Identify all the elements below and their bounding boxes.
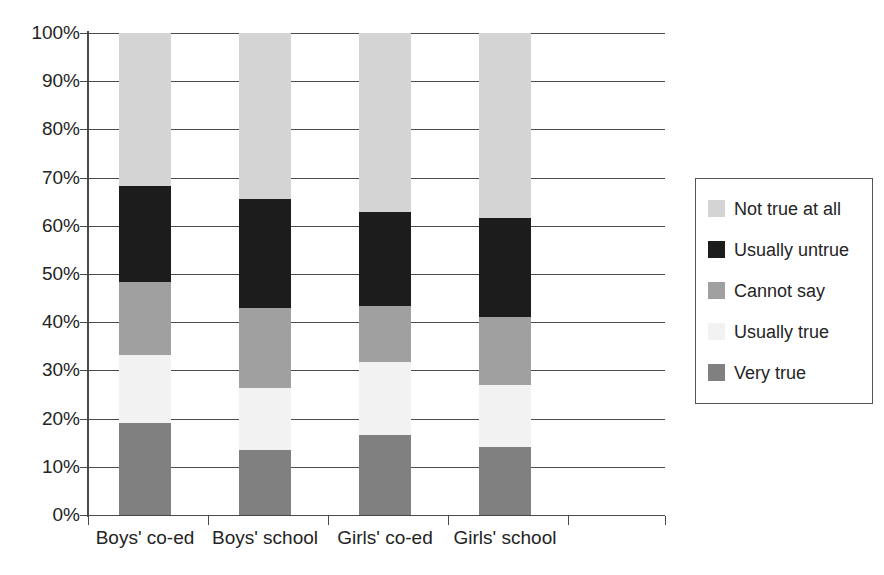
bar-segment-usually-true[interactable]: [119, 355, 171, 424]
legend-item-label: Very true: [734, 363, 806, 383]
gridline: [88, 515, 665, 516]
y-axis-label-group: 100%90%80%70%60%50%40%30%20%10%0%: [0, 0, 80, 575]
y-axis-tick-mark: [80, 226, 89, 227]
y-axis-tick-label: 100%: [0, 23, 80, 42]
y-axis-tick-mark: [80, 178, 89, 179]
legend-swatch-icon: [708, 323, 725, 340]
bar-segment-usually-true[interactable]: [359, 362, 411, 435]
bar-segment-cannot-say[interactable]: [479, 317, 531, 385]
legend-item-label: Not true at all: [734, 199, 841, 219]
bar-segment-not-true-at-all[interactable]: [479, 33, 531, 218]
bar-segment-usually-true[interactable]: [479, 385, 531, 447]
y-axis-tick-label: 10%: [0, 457, 80, 476]
plot-area: [88, 33, 665, 515]
y-axis-tick-label: 70%: [0, 168, 80, 187]
bar-segment-cannot-say[interactable]: [119, 282, 171, 354]
y-axis-tick-mark: [80, 81, 89, 82]
y-axis-tick-mark: [80, 129, 89, 130]
legend-item-usually-untrue[interactable]: Usually untrue: [708, 229, 872, 270]
bar-4[interactable]: [479, 33, 531, 515]
bar-2[interactable]: [239, 33, 291, 515]
legend-item-not-true-at-all[interactable]: Not true at all: [708, 188, 872, 229]
legend-item-usually-true[interactable]: Usually true: [708, 311, 872, 352]
legend-swatch-icon: [708, 364, 725, 381]
stacked-bar-chart: 100%90%80%70%60%50%40%30%20%10%0% Boys' …: [0, 0, 884, 575]
bar-segment-cannot-say[interactable]: [239, 308, 291, 388]
bar-segment-usually-untrue[interactable]: [359, 212, 411, 306]
legend-item-label: Cannot say: [734, 281, 825, 301]
legend-box: Not true at allUsually untrueCannot sayU…: [695, 178, 873, 404]
y-axis-tick-label: 30%: [0, 360, 80, 379]
bar-segment-usually-untrue[interactable]: [119, 186, 171, 282]
x-axis-tick-mark: [665, 516, 666, 525]
bar-segment-cannot-say[interactable]: [359, 306, 411, 362]
bar-segment-usually-true[interactable]: [239, 388, 291, 450]
x-axis-tick-mark: [88, 516, 89, 525]
y-axis-tick-label: 0%: [0, 505, 80, 524]
y-axis-tick-mark: [80, 322, 89, 323]
legend-item-label: Usually true: [734, 322, 829, 342]
y-axis-tick-label: 90%: [0, 71, 80, 90]
y-axis-tick-mark: [80, 370, 89, 371]
legend-swatch-icon: [708, 282, 725, 299]
bar-segment-not-true-at-all[interactable]: [239, 33, 291, 199]
x-axis-tick-mark: [208, 516, 209, 525]
y-axis-tick-label: 20%: [0, 409, 80, 428]
bar-segment-very-true[interactable]: [479, 447, 531, 515]
y-axis-tick-label: 40%: [0, 312, 80, 331]
legend-swatch-icon: [708, 200, 725, 217]
bar-3[interactable]: [359, 33, 411, 515]
bar-segment-very-true[interactable]: [359, 435, 411, 515]
x-axis-tick-mark: [448, 516, 449, 525]
legend-item-label: Usually untrue: [734, 240, 849, 260]
y-axis-tick-mark: [80, 419, 89, 420]
y-axis-tick-mark: [80, 33, 89, 34]
bar-segment-very-true[interactable]: [119, 423, 171, 515]
bar-1[interactable]: [119, 33, 171, 515]
x-axis-tick-label: Girls' school: [420, 527, 590, 549]
legend-item-very-true[interactable]: Very true: [708, 352, 872, 393]
bar-segment-usually-untrue[interactable]: [239, 199, 291, 308]
bar-segment-not-true-at-all[interactable]: [359, 33, 411, 212]
y-axis-tick-label: 60%: [0, 216, 80, 235]
y-axis-tick-mark: [80, 467, 89, 468]
legend-swatch-icon: [708, 241, 725, 258]
x-axis-tick-mark: [328, 516, 329, 525]
bar-segment-very-true[interactable]: [239, 450, 291, 515]
legend-item-cannot-say[interactable]: Cannot say: [708, 270, 872, 311]
y-axis-tick-label: 50%: [0, 264, 80, 283]
y-axis-tick-mark: [80, 274, 89, 275]
x-axis-tick-mark: [568, 516, 569, 525]
bar-segment-not-true-at-all[interactable]: [119, 33, 171, 186]
bar-segment-usually-untrue[interactable]: [479, 218, 531, 317]
y-axis-tick-label: 80%: [0, 119, 80, 138]
